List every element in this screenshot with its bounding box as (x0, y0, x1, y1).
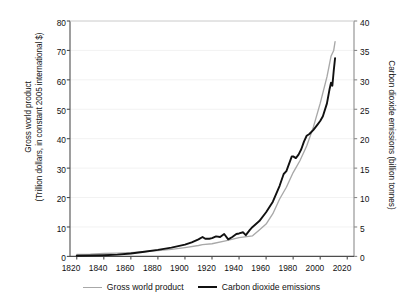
legend-swatch-carbon-dioxide-emissions-icon (198, 286, 217, 288)
legend-label-carbon-dioxide-emissions: Carbon dioxide emissions (222, 282, 320, 292)
series-line-carbon-dioxide-emissions (77, 58, 335, 256)
plot-area (0, 0, 403, 306)
gridlines (70, 21, 354, 227)
legend-swatch-gross-world-product-icon (83, 287, 102, 288)
legend-label-gross-world-product: Gross world product (107, 282, 184, 292)
chart-figure: Gross world product (Trillion dollars, i… (0, 0, 403, 306)
legend-item-carbon-dioxide-emissions: Carbon dioxide emissions (198, 282, 320, 292)
series-line-gross-world-product (77, 42, 335, 255)
legend-item-gross-world-product: Gross world product (83, 282, 184, 292)
chart-legend: Gross world product Carbon dioxide emiss… (0, 282, 403, 292)
axis-ticks (67, 21, 357, 260)
